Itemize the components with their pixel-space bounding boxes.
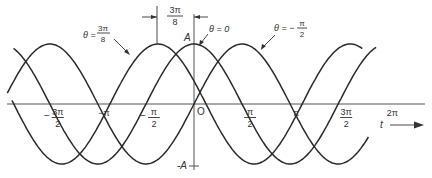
neg-amplitude-label: -A bbox=[177, 160, 187, 171]
svg-text:2π: 2π bbox=[387, 108, 398, 118]
label-theta-neg-pi-2: θ = − π 2 bbox=[261, 19, 307, 50]
svg-text:3π: 3π bbox=[341, 107, 352, 117]
svg-text:θ = 0: θ = 0 bbox=[209, 24, 229, 34]
leader-line bbox=[263, 35, 275, 47]
x-tick-label: 3π2 bbox=[340, 107, 352, 129]
phase-dim-num: 3π bbox=[169, 5, 180, 15]
x-tick-label: 2π bbox=[387, 108, 398, 118]
label-theta-0: θ = 0 bbox=[199, 24, 229, 46]
x-tick-label: π bbox=[293, 108, 299, 118]
svg-text:2: 2 bbox=[248, 119, 253, 129]
amplitude-label: A bbox=[183, 32, 191, 43]
diagram-canvas: 3π 8 A -A O θ = 3π 8 θ = 0 θ = − π 2 −3π… bbox=[0, 0, 432, 178]
phase-shift-diagram: 3π 8 A -A O θ = 3π 8 θ = 0 θ = − π 2 −3π… bbox=[0, 0, 432, 178]
svg-text:2: 2 bbox=[344, 119, 349, 129]
x-tick-label: −π bbox=[98, 108, 109, 118]
time-axis-label: t bbox=[380, 119, 384, 130]
x-tick-labels: −3π2−π−π2π2π3π22π bbox=[44, 107, 398, 129]
svg-text:3π: 3π bbox=[98, 24, 108, 33]
arrow-right-icon bbox=[414, 122, 424, 129]
svg-text:π: π bbox=[247, 107, 253, 117]
svg-text:π: π bbox=[151, 107, 157, 117]
label-theta-3pi-8: θ = 3π 8 bbox=[83, 24, 130, 55]
svg-text:2: 2 bbox=[300, 30, 305, 39]
svg-text:−: − bbox=[44, 110, 50, 121]
svg-text:2: 2 bbox=[55, 119, 60, 129]
svg-text:π: π bbox=[293, 108, 299, 118]
svg-text:π: π bbox=[299, 19, 305, 28]
svg-text:−: − bbox=[140, 110, 146, 121]
arrowhead-right-icon bbox=[151, 15, 157, 19]
svg-text:2: 2 bbox=[151, 119, 156, 129]
svg-text:−π: −π bbox=[98, 108, 109, 118]
svg-text:8: 8 bbox=[101, 35, 106, 44]
svg-text:θ = −: θ = − bbox=[274, 23, 294, 33]
phase-dim-den: 8 bbox=[172, 17, 177, 27]
origin-label: O bbox=[197, 106, 205, 117]
arrowhead-left-icon bbox=[194, 15, 200, 19]
svg-text:3π: 3π bbox=[52, 107, 63, 117]
x-tick-label: −π2 bbox=[140, 107, 160, 129]
svg-text:θ =: θ = bbox=[83, 30, 96, 40]
